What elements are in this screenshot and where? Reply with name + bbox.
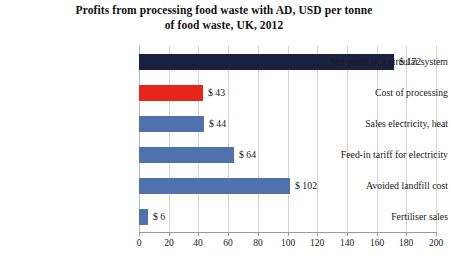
category-label: Sales electricity, heat — [314, 118, 448, 129]
category-label: Net profit in a circular system — [314, 56, 448, 67]
x-tick-80 — [258, 232, 259, 236]
value-label: $ 43 — [208, 87, 225, 98]
value-label: $ 102 — [295, 180, 317, 191]
plot-area — [139, 46, 436, 232]
x-tick-120 — [317, 232, 318, 236]
x-tick-label-40: 40 — [183, 238, 213, 248]
x-tick-label-0: 0 — [124, 238, 154, 248]
x-tick-40 — [198, 232, 199, 236]
x-tick-0 — [139, 232, 140, 236]
x-tick-label-100: 100 — [273, 238, 303, 248]
x-tick-160 — [377, 232, 378, 236]
x-tick-label-120: 120 — [302, 238, 332, 248]
bar[interactable] — [139, 178, 290, 194]
bar[interactable] — [139, 147, 234, 163]
chart-title: Profits from processing food waste with … — [0, 3, 448, 33]
gridline-60 — [228, 46, 229, 232]
x-tick-200 — [436, 232, 437, 236]
gridline-160 — [377, 46, 378, 232]
bar[interactable] — [139, 209, 148, 225]
chart-title-line-2: of food waste, UK, 2012 — [0, 18, 448, 33]
x-tick-180 — [406, 232, 407, 236]
x-tick-100 — [288, 232, 289, 236]
gridline-40 — [198, 46, 199, 232]
category-label: Cost of processing — [314, 87, 448, 98]
x-tick-label-80: 80 — [243, 238, 273, 248]
gridline-200 — [436, 46, 437, 232]
x-tick-label-160: 160 — [362, 238, 392, 248]
category-label: Avoided landfill cost — [314, 180, 448, 191]
x-tick-label-20: 20 — [154, 238, 184, 248]
gridline-0 — [139, 46, 140, 232]
gridline-20 — [169, 46, 170, 232]
value-label: $ 44 — [209, 118, 226, 129]
value-label: $ 6 — [153, 211, 165, 222]
x-tick-140 — [347, 232, 348, 236]
gridline-100 — [288, 46, 289, 232]
x-tick-label-200: 200 — [421, 238, 451, 248]
x-tick-60 — [228, 232, 229, 236]
bar[interactable] — [139, 116, 204, 132]
value-label: $ 172 — [399, 56, 421, 67]
x-tick-label-140: 140 — [332, 238, 362, 248]
category-label: Fertiliser sales — [314, 211, 448, 222]
gridline-140 — [347, 46, 348, 232]
chart-title-line-1: Profits from processing food waste with … — [76, 4, 373, 16]
gridline-120 — [317, 46, 318, 232]
category-label: Feed-in tariff for electricity — [314, 149, 448, 160]
value-label: $ 64 — [239, 149, 256, 160]
gridline-80 — [258, 46, 259, 232]
x-tick-20 — [169, 232, 170, 236]
x-tick-label-180: 180 — [391, 238, 421, 248]
x-tick-label-60: 60 — [213, 238, 243, 248]
bar[interactable] — [139, 85, 203, 101]
gridline-180 — [406, 46, 407, 232]
